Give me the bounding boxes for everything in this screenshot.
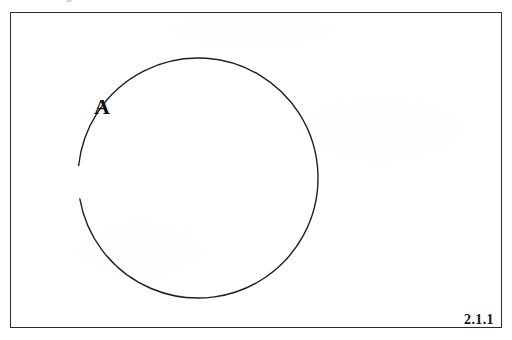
- set-a-label: A: [94, 96, 110, 118]
- figure-frame-border: [10, 12, 502, 328]
- figure-page: Venn diagram A 2.1.1: [0, 0, 512, 340]
- running-head-text: Venn diagram: [28, 0, 208, 3]
- figure-number-label: 2.1.1: [464, 313, 494, 327]
